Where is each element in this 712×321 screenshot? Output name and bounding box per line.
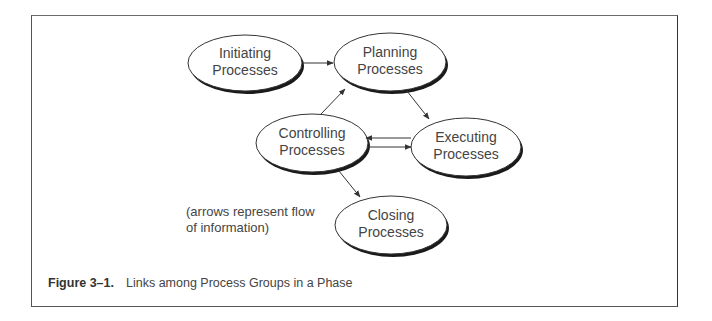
node-label-line2: Processes xyxy=(358,224,423,240)
annotation-line2: of information) xyxy=(186,220,315,236)
node-label-line2: Processes xyxy=(279,142,344,158)
node-executing-processes: Executing Processes xyxy=(411,118,523,179)
node-label-line1: Closing xyxy=(368,207,415,223)
process-groups-diagram: Initiating Processes Planning Processes … xyxy=(0,0,712,321)
node-label-line2: Processes xyxy=(433,146,498,162)
figure-number: Figure 3–1. xyxy=(48,276,114,290)
node-label-line2: Processes xyxy=(357,61,422,77)
node-closing-processes: Closing Processes xyxy=(335,196,449,257)
node-planning-processes: Planning Processes xyxy=(334,33,448,94)
figure-caption-text: Links among Process Groups in a Phase xyxy=(126,276,353,290)
node-label-line1: Planning xyxy=(363,44,418,60)
arrow-planning-to-executing xyxy=(407,91,429,119)
arrow-controlling-to-closing xyxy=(339,171,360,197)
node-label-line1: Executing xyxy=(435,129,496,145)
arrow-controlling-to-planning xyxy=(321,89,345,114)
node-label-line2: Processes xyxy=(212,62,277,78)
node-initiating-processes: Initiating Processes xyxy=(188,35,304,94)
node-controlling-processes: Controlling Processes xyxy=(256,114,370,175)
node-label-line1: Controlling xyxy=(279,125,346,141)
annotation-line1: (arrows represent flow xyxy=(186,204,315,220)
figure-caption: Figure 3–1.Links among Process Groups in… xyxy=(48,276,353,290)
arrows-legend-note: (arrows represent flow of information) xyxy=(186,204,315,236)
node-label-line1: Initiating xyxy=(219,45,271,61)
